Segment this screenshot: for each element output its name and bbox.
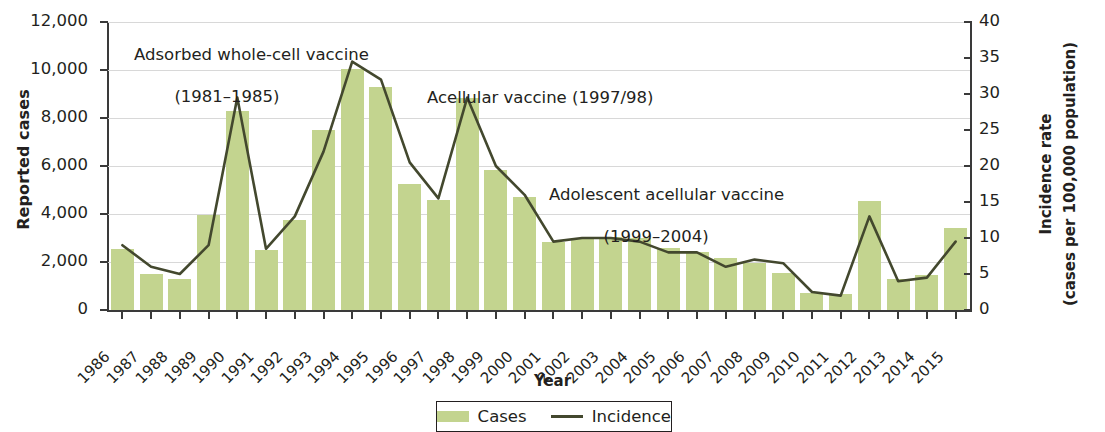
y-axis-right-tick [964, 57, 972, 59]
x-axis-tick [955, 311, 957, 319]
x-axis-tick [868, 311, 870, 319]
x-axis-tick [552, 311, 554, 319]
x-axis-tick [754, 311, 756, 319]
y-axis-left-tick-label: 10,000 [30, 61, 88, 78]
annotation-1-line1: Acellular vaccine (1997/98) [427, 88, 653, 107]
chart-legend: Cases Incidence [436, 401, 672, 432]
x-axis-tick [323, 311, 325, 319]
legend-incidence-label: Incidence [592, 407, 671, 426]
y-axis-left-tick-label: 6,000 [41, 157, 88, 174]
legend-incidence-line [551, 415, 583, 418]
y-axis-right-tick-label: 10 [979, 229, 1000, 246]
y-axis-right-tick-label: 40 [979, 13, 1000, 30]
y-axis-right-tick [964, 129, 972, 131]
y-axis-right-title-line2: (cases per 100,000 population) [1061, 29, 1079, 319]
x-axis-tick [351, 311, 353, 319]
y-axis-left-tick [100, 213, 108, 215]
x-axis-tick [236, 311, 238, 319]
y-axis-right-tick-label: 20 [979, 157, 1000, 174]
annotation-adsorbed-whole-cell-vaccine: Adsorbed whole-cell vaccine (1981–1985) [113, 23, 369, 150]
chart-figure: Reported cases Incidence rate (cases per… [0, 0, 1105, 432]
y-axis-right-tick [964, 309, 972, 311]
y-axis-right-title-line1: Incidence rate [1037, 29, 1055, 319]
y-axis-left-tick [100, 309, 108, 311]
y-axis-left-tick [100, 117, 108, 119]
x-axis-tick [150, 311, 152, 319]
y-axis-left-tick [100, 261, 108, 263]
y-axis-right-title: Incidence rate (cases per 100,000 popula… [1013, 20, 1079, 310]
y-axis-left-tick-label: 8,000 [41, 109, 88, 126]
annotation-2-line2: (1999–2004) [528, 226, 784, 247]
y-axis-right-tick [964, 237, 972, 239]
y-axis-right-tick-label: 30 [979, 85, 1000, 102]
y-axis-right-tick [964, 273, 972, 275]
x-axis-tick [696, 311, 698, 319]
x-axis-tick [639, 311, 641, 319]
x-axis-tick [926, 311, 928, 319]
y-axis-right-tick-label: 25 [979, 121, 1000, 138]
x-axis-tick [265, 311, 267, 319]
x-axis-title: Year [0, 372, 1105, 390]
x-axis-tick [581, 311, 583, 319]
x-axis-tick [466, 311, 468, 319]
x-axis-tick [610, 311, 612, 319]
legend-cases-label: Cases [478, 407, 527, 426]
y-axis-left-tick-label: 12,000 [30, 13, 88, 30]
x-axis-tick [524, 311, 526, 319]
y-axis-left-tick [100, 69, 108, 71]
y-axis-left-tick [100, 21, 108, 23]
y-axis-right-tick [964, 165, 972, 167]
y-axis-right-tick-label: 0 [979, 301, 990, 318]
x-axis-tick [208, 311, 210, 319]
y-axis-right-tick-label: 5 [979, 265, 990, 282]
annotation-0-line1: Adsorbed whole-cell vaccine [134, 45, 369, 64]
x-axis-tick [667, 311, 669, 319]
x-axis-tick [409, 311, 411, 319]
x-axis-tick [811, 311, 813, 319]
x-axis-tick [380, 311, 382, 319]
x-axis-tick [782, 311, 784, 319]
x-axis-tick [294, 311, 296, 319]
x-axis-tick [179, 311, 181, 319]
x-axis-tick [725, 311, 727, 319]
legend-cases-swatch [437, 411, 469, 422]
y-axis-left-title: Reported cases [14, 75, 33, 245]
x-axis-tick [495, 311, 497, 319]
y-axis-left-tick-label: 0 [78, 301, 89, 318]
x-axis-tick [121, 311, 123, 319]
annotation-0-line2: (1981–1985) [113, 86, 369, 107]
y-axis-right-tick [964, 201, 972, 203]
annotation-2-line1: Adolescent acellular vaccine [549, 185, 784, 204]
y-axis-left-tick-label: 2,000 [41, 253, 88, 270]
x-axis-tick [840, 311, 842, 319]
x-axis-tick [897, 311, 899, 319]
y-axis-right-tick [964, 93, 972, 95]
y-axis-right-tick-label: 15 [979, 193, 1000, 210]
annotation-acellular-vaccine: Acellular vaccine (1997/98) [406, 66, 653, 129]
y-axis-right-tick [964, 21, 972, 23]
x-axis-tick [437, 311, 439, 319]
y-axis-right-tick-label: 35 [979, 49, 1000, 66]
y-axis-left-tick [100, 165, 108, 167]
y-axis-left-tick-label: 4,000 [41, 205, 88, 222]
annotation-adolescent-acellular-vaccine: Adolescent acellular vaccine (1999–2004) [528, 163, 784, 290]
